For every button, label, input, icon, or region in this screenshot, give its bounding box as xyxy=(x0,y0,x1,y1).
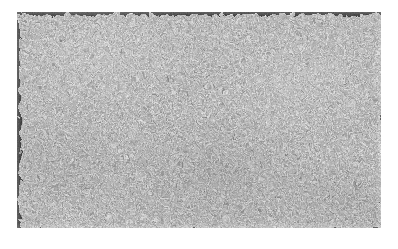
figure-canvas xyxy=(0,0,398,249)
fibrous-texture-micrograph xyxy=(17,12,381,228)
micrograph-streak-layer xyxy=(17,12,381,228)
micrograph-texture-base xyxy=(17,12,381,228)
